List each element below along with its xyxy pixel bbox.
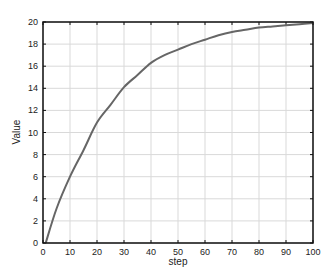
x-tick-label: 30 — [119, 247, 129, 257]
x-tick-label: 10 — [65, 247, 75, 257]
y-tick-label: 12 — [28, 105, 38, 115]
x-tick-label: 0 — [40, 247, 45, 257]
x-tick-label: 40 — [146, 247, 156, 257]
x-tick-label: 20 — [92, 247, 102, 257]
x-tick-label: 90 — [281, 247, 291, 257]
x-tick-label: 100 — [305, 247, 320, 257]
y-tick-label: 6 — [33, 172, 38, 182]
y-tick-label: 10 — [28, 128, 38, 138]
y-tick-label: 0 — [33, 238, 38, 248]
y-tick-label: 2 — [33, 216, 38, 226]
grid-lines — [43, 22, 313, 243]
x-tick-label: 60 — [200, 247, 210, 257]
data-line — [46, 23, 313, 243]
y-tick-label: 20 — [28, 17, 38, 27]
y-tick-label: 8 — [33, 150, 38, 160]
y-tick-label: 4 — [33, 194, 38, 204]
x-axis-label: step — [169, 256, 188, 267]
y-axis-label: Value — [11, 119, 22, 144]
line-chart: 010203040506070809010002468101214161820 … — [0, 0, 336, 279]
y-tick-label: 14 — [28, 83, 38, 93]
y-tick-label: 18 — [28, 39, 38, 49]
x-tick-label: 70 — [227, 247, 237, 257]
x-tick-label: 80 — [254, 247, 264, 257]
y-tick-label: 16 — [28, 61, 38, 71]
